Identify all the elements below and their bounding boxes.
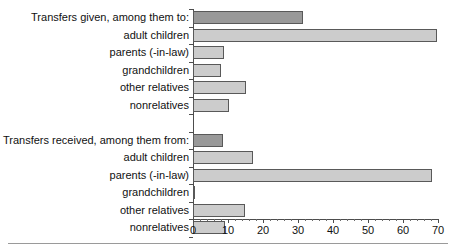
y-axis-tick [189, 62, 193, 63]
x-axis-tick-label: 70 [432, 224, 444, 236]
y-axis-tick [189, 44, 193, 45]
x-axis-minor-tick [221, 219, 222, 221]
y-axis-tick [189, 27, 193, 28]
x-axis-minor-tick [354, 219, 355, 221]
y-axis-tick [189, 9, 193, 10]
group-header-label: Transfers given, among them to: [0, 9, 189, 27]
y-axis-tick [189, 114, 193, 115]
x-axis-minor-tick [242, 219, 243, 221]
x-axis-tick-label: 20 [257, 224, 269, 236]
x-axis-major-tick [228, 219, 229, 223]
category-label: grandchildren [0, 184, 189, 202]
x-axis-major-tick [403, 219, 404, 223]
x-axis-minor-tick [382, 219, 383, 221]
y-axis-tick [189, 149, 193, 150]
x-axis-minor-tick [410, 219, 411, 221]
x-axis-minor-tick [396, 219, 397, 221]
x-axis-major-tick [333, 219, 334, 223]
y-axis-tick [189, 167, 193, 168]
category-label: other relatives [0, 79, 189, 97]
x-axis-line [193, 219, 438, 220]
category-label: grandchildren [0, 62, 189, 80]
x-axis-minor-tick [312, 219, 313, 221]
x-axis-minor-tick [424, 219, 425, 221]
x-axis-minor-tick [326, 219, 327, 221]
x-axis-minor-tick [200, 219, 201, 221]
category-bar [193, 221, 225, 234]
y-axis-tick [189, 132, 193, 133]
category-label: adult children [0, 27, 189, 45]
x-axis-minor-tick [256, 219, 257, 221]
x-axis-minor-tick [340, 219, 341, 221]
x-axis-minor-tick [375, 219, 376, 221]
x-axis-tick-label: 0 [190, 224, 196, 236]
x-axis-minor-tick [305, 219, 306, 221]
y-axis-tick [189, 97, 193, 98]
bar-chart: Transfers given, among them to:adult chi… [0, 0, 455, 252]
category-label: nonrelatives [0, 97, 189, 115]
y-axis-tick [189, 184, 193, 185]
x-axis-major-tick [368, 219, 369, 223]
x-axis-major-tick [263, 219, 264, 223]
x-axis-tick-label: 50 [362, 224, 374, 236]
category-label: nonrelatives [0, 219, 189, 237]
x-axis-minor-tick [347, 219, 348, 221]
y-axis-tick [189, 237, 193, 238]
x-axis-major-tick [438, 219, 439, 223]
group-header-label: Transfers received, among them from: [0, 132, 189, 150]
footer-rule [8, 243, 448, 244]
category-label: parents (-in-law) [0, 44, 189, 62]
x-axis-minor-tick [417, 219, 418, 221]
x-axis-minor-tick [277, 219, 278, 221]
x-axis-minor-tick [284, 219, 285, 221]
x-axis-minor-tick [207, 219, 208, 221]
x-axis-minor-tick [319, 219, 320, 221]
y-axis-tick [189, 79, 193, 80]
x-axis-tick-label: 30 [292, 224, 304, 236]
x-axis-major-tick [193, 219, 194, 223]
x-axis-minor-tick [431, 219, 432, 221]
category-labels-layer: Transfers given, among them to:adult chi… [0, 9, 455, 219]
category-label: adult children [0, 149, 189, 167]
category-label: parents (-in-law) [0, 167, 189, 185]
x-axis-minor-tick [270, 219, 271, 221]
x-axis-minor-tick [214, 219, 215, 221]
x-axis-minor-tick [235, 219, 236, 221]
x-axis-tick-label: 40 [327, 224, 339, 236]
category-label: other relatives [0, 202, 189, 220]
x-axis-minor-tick [389, 219, 390, 221]
x-axis-tick-label: 60 [397, 224, 409, 236]
x-axis-minor-tick [249, 219, 250, 221]
y-axis-tick [189, 202, 193, 203]
x-axis-major-tick [298, 219, 299, 223]
x-axis-minor-tick [291, 219, 292, 221]
x-axis-minor-tick [361, 219, 362, 221]
x-axis-tick-label: 10 [222, 224, 234, 236]
